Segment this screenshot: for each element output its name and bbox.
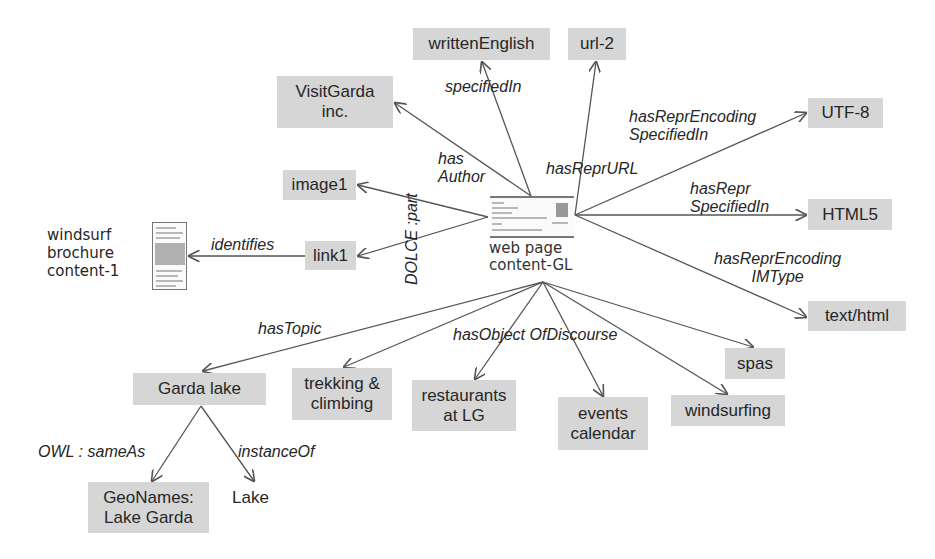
node-restaurants: restaurants at LG — [412, 380, 516, 431]
node-url-2: url-2 — [568, 28, 626, 60]
node-label-line2: Lake Garda — [104, 508, 193, 528]
node-utf-8: UTF-8 — [808, 98, 883, 128]
node-label: url-2 — [580, 34, 614, 54]
node-label-line1: VisitGarda — [295, 82, 374, 102]
node-html5: HTML5 — [808, 199, 892, 230]
center-node-label-line2: content-GL — [489, 257, 572, 274]
node-label: link1 — [313, 246, 348, 266]
edge-dolce-part-image1 — [358, 185, 488, 217]
node-text-html: text/html — [808, 301, 906, 331]
node-label: UTF-8 — [821, 103, 869, 123]
node-label: windsurfing — [685, 401, 771, 421]
brochure-label-line3: content-1 — [47, 262, 119, 280]
brochure-label: windsurf brochure content-1 — [47, 226, 119, 280]
node-label-line2: at LG — [443, 406, 485, 426]
edge-label-owl-sameAs: OWL : sameAs — [38, 443, 145, 461]
edge-label-line1: hasReprEncoding — [629, 108, 756, 126]
edge-label-hasReprURL: hasReprURL — [546, 160, 638, 178]
edge-label-line1: hasReprEncoding — [714, 250, 841, 268]
center-node-label-line1: web page — [489, 240, 572, 257]
node-visitgarda: VisitGarda inc. — [277, 76, 393, 128]
node-label-line1: trekking & — [304, 374, 380, 394]
edge-label-hasAuthor: has Author — [438, 150, 485, 186]
brochure-label-line2: brochure — [47, 244, 119, 262]
edge-label-hasTopic: hasTopic — [258, 320, 321, 338]
edge-label-hasObjectOfDiscourse: hasObject OfDiscourse — [453, 326, 618, 344]
node-label: spas — [737, 354, 773, 374]
edge-label-instanceOf: instanceOf — [238, 443, 314, 461]
node-written-english: writtenEnglish — [413, 28, 550, 60]
brochure-label-line1: windsurf — [47, 226, 119, 244]
edge-dolce-part-link1 — [358, 217, 488, 256]
node-label: Garda lake — [158, 379, 241, 399]
edge-label-line2: SpecifiedIn — [629, 126, 756, 144]
node-label: HTML5 — [822, 205, 878, 225]
edge-label-line2: Author — [438, 168, 485, 186]
web-page-thumbnail-icon — [490, 196, 574, 238]
edge-label-line2: SpecifiedIn — [690, 198, 769, 216]
edge-owl-sameAs — [152, 406, 201, 481]
edge-hasReprURL — [575, 62, 596, 215]
node-label-line2: inc. — [322, 102, 348, 122]
node-image1: image1 — [283, 170, 356, 200]
node-spas: spas — [725, 348, 785, 379]
node-label: image1 — [292, 175, 348, 195]
node-lake: Lake — [232, 488, 269, 508]
node-label-line2: calendar — [570, 424, 635, 444]
brochure-document-icon — [152, 222, 187, 290]
edge-label-hasReprSpecifiedIn: hasRepr SpecifiedIn — [690, 180, 769, 216]
center-node-label: web page content-GL — [489, 240, 572, 274]
edge-label-line1: hasRepr — [690, 180, 769, 198]
node-label: writtenEnglish — [429, 34, 535, 54]
node-label-line2: climbing — [311, 394, 373, 414]
edge-label-line1: has — [438, 150, 485, 168]
node-windsurfing: windsurfing — [671, 395, 785, 426]
node-events-calendar: events calendar — [558, 397, 648, 450]
edge-label-dolce-part: DOLCE :part — [403, 193, 421, 285]
edge-label-hasReprEncodingIMType: hasReprEncoding IMType — [714, 250, 841, 286]
node-label-line1: restaurants — [421, 386, 506, 406]
node-link1: link1 — [305, 241, 356, 270]
node-garda-lake: Garda lake — [133, 373, 266, 405]
edge-label-identifies: identifies — [211, 236, 274, 254]
node-trekking-climbing: trekking & climbing — [292, 368, 392, 420]
edge-label-specifiedIn: specifiedIn — [445, 78, 522, 96]
node-label: text/html — [825, 306, 889, 326]
edge-label-line2: IMType — [714, 268, 841, 286]
node-geonames-lake-garda: GeoNames: Lake Garda — [88, 482, 209, 533]
ontology-diagram: writtenEnglish url-2 VisitGarda inc. UTF… — [0, 0, 935, 559]
node-label-line1: GeoNames: — [103, 488, 194, 508]
node-label-line1: events — [578, 404, 628, 424]
edge-label-hasReprEncodingSpecifiedIn: hasReprEncoding SpecifiedIn — [629, 108, 756, 144]
